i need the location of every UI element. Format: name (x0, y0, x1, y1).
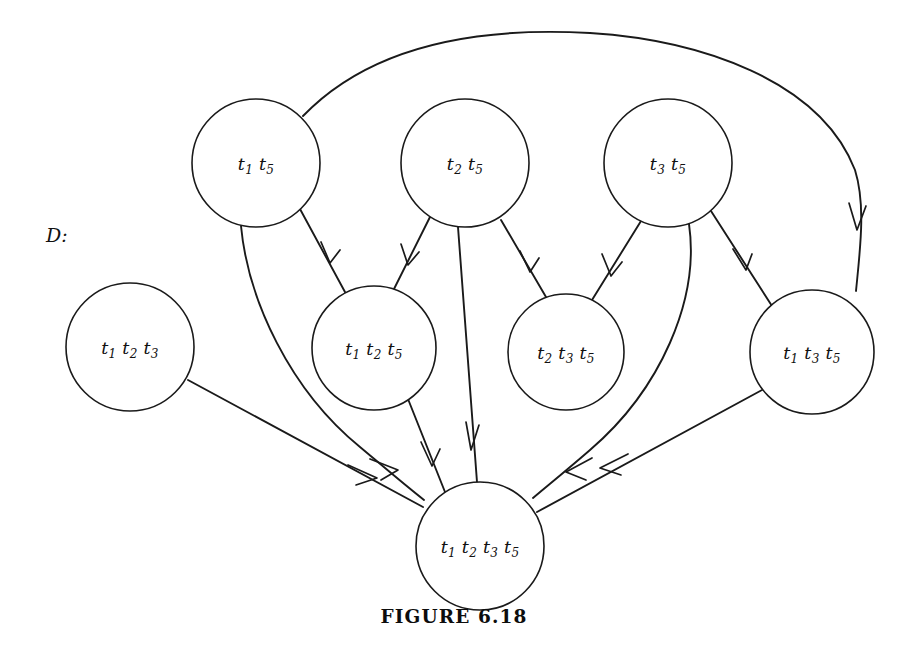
edge-t1t2t5-to-t1t2t3t5 (408, 399, 445, 492)
arrowhead-t1t5-to-t1t3t5-arc (849, 203, 866, 230)
figure-container: t1 t5 t2 t5 t3 t5 t1 t2 t3 (0, 0, 908, 652)
edge-t2t5-to-t1t2t3t5 (458, 227, 477, 482)
node-layer: t1 t5 t2 t5 t3 t5 t1 t2 t3 (66, 99, 874, 610)
node-t1t2t3[interactable]: t1 t2 t3 (66, 283, 194, 411)
arrowhead-t3t5-to-t1t2t3t5 (566, 458, 592, 480)
figure-caption: FIGURE 6.18 (0, 606, 908, 627)
node-t3t5[interactable]: t3 t5 (604, 99, 732, 227)
edge-t1t5-to-t1t3t5-arc (303, 32, 861, 291)
diagram-name-label: D: (45, 224, 68, 246)
edge-layer (188, 32, 866, 512)
node-t1t2t3t5[interactable]: t1 t2 t3 t5 (416, 482, 544, 610)
edge-t1t5-to-t1t2t5 (300, 209, 345, 292)
node-t1t3t5[interactable]: t1 t3 t5 (750, 290, 874, 414)
directed-graph-svg: t1 t5 t2 t5 t3 t5 t1 t2 t3 (0, 0, 908, 652)
node-t1t5[interactable]: t1 t5 (192, 99, 320, 227)
node-t1t2t5[interactable]: t1 t2 t5 (312, 286, 436, 410)
edge-t3t5-to-t2t3t5 (592, 221, 641, 300)
edge-t3t5-to-t1t3t5 (711, 211, 772, 306)
arrowhead-t2t5-to-t1t2t5 (401, 244, 419, 265)
node-t2t3t5[interactable]: t2 t3 t5 (508, 294, 624, 410)
edge-t2t5-to-t1t2t5 (394, 217, 430, 289)
node-t2t5[interactable]: t2 t5 (401, 99, 529, 227)
